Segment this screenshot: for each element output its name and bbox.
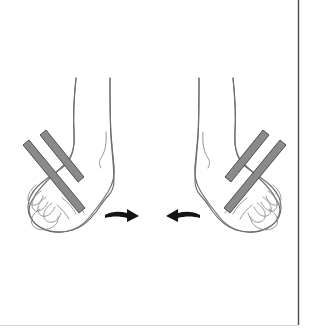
ankle-inversion-figure: Ankle inversion with resistance bands Li… — [0, 0, 309, 328]
illustration-canvas: Ankle inversion with resistance bands Li… — [0, 0, 309, 328]
